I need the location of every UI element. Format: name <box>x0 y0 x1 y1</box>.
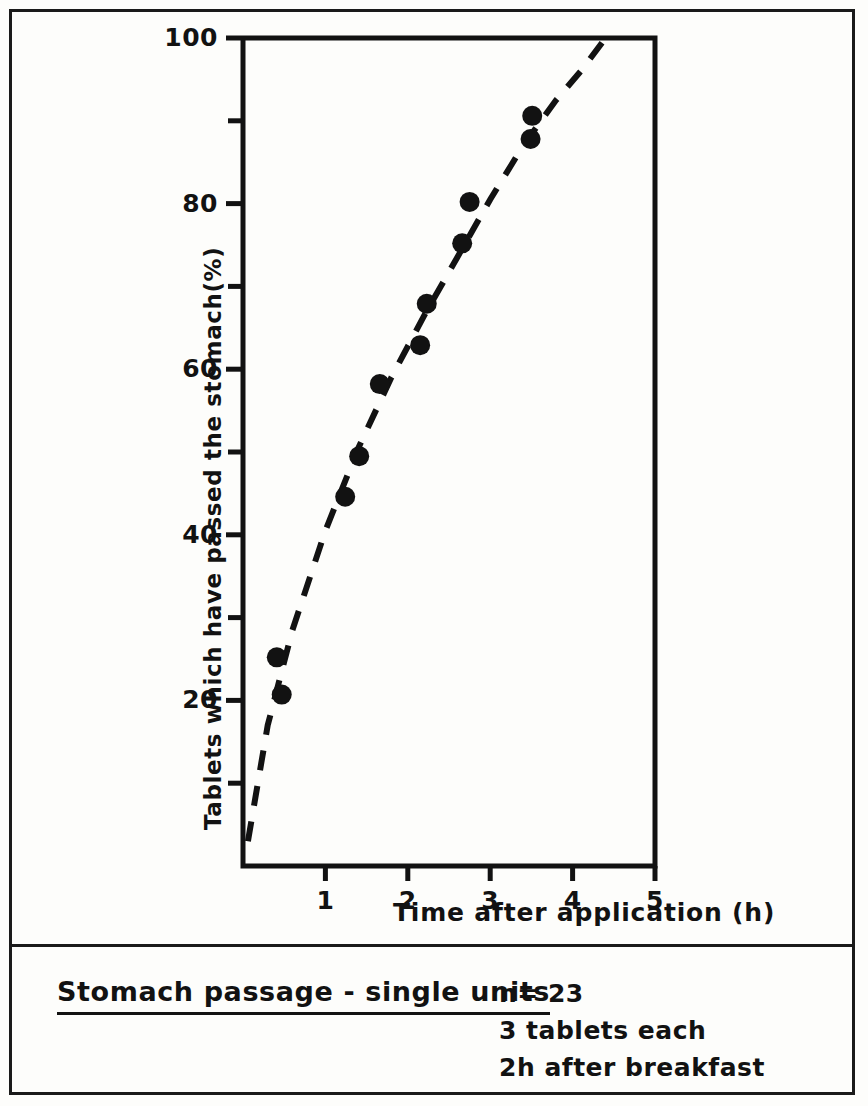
plot-area: 20406080100 12345 Tablets which have pas… <box>0 0 868 940</box>
data-point <box>267 647 287 667</box>
figure-panel: 20406080100 12345 Tablets which have pas… <box>0 0 868 1106</box>
x-tick-label: 1 <box>305 886 345 915</box>
y-axis-title: Tablets which have passed the stomach(%) <box>200 247 226 830</box>
y-tick-label: 80 <box>148 189 218 218</box>
data-point <box>335 487 355 507</box>
caption-divider <box>9 944 855 947</box>
data-point <box>370 374 390 394</box>
y-axis-ticks <box>226 38 243 783</box>
note-sample-size: n= 23 <box>499 975 765 1012</box>
x-axis-title: Time after application (h) <box>393 898 775 927</box>
data-point-group <box>267 106 542 705</box>
data-point <box>417 294 437 314</box>
data-point <box>349 446 369 466</box>
data-point <box>522 106 542 126</box>
note-timing: 2h after breakfast <box>499 1049 765 1086</box>
chart-svg <box>0 0 868 940</box>
figure-notes: n= 23 3 tablets each 2h after breakfast <box>499 975 765 1086</box>
figure-caption-title: Stomach passage - single units <box>57 976 550 1015</box>
data-point <box>410 335 430 355</box>
data-point <box>521 129 541 149</box>
note-dose: 3 tablets each <box>499 1012 765 1049</box>
y-tick-label: 100 <box>148 23 218 52</box>
data-point <box>460 192 480 212</box>
fitted-trend-line <box>248 38 606 841</box>
axis-frame <box>243 38 655 866</box>
data-point <box>452 233 472 253</box>
data-point <box>272 685 292 705</box>
